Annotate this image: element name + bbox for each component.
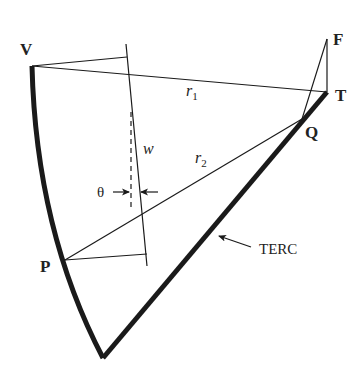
v-ray-line [32, 57, 127, 66]
p-ray-line [65, 254, 147, 260]
label-f: F [333, 30, 343, 49]
terc-arrow [219, 236, 251, 247]
label-v: V [20, 40, 33, 59]
r1-line [32, 66, 327, 92]
label-t: T [335, 86, 347, 105]
left-curved-edge [32, 66, 103, 358]
label-terc: TERC [259, 241, 297, 257]
label-w: w [143, 140, 154, 157]
label-theta: θ [97, 184, 104, 200]
terc-edge [103, 92, 327, 358]
label-p: P [40, 257, 50, 276]
label-q: Q [305, 123, 318, 142]
label-r2-sub: 2 [201, 157, 207, 169]
label-r2: r2 [195, 149, 207, 169]
label-r1: r1 [186, 82, 198, 102]
label-r1-sub: 1 [192, 90, 198, 102]
terc-geometry-diagram: V F T Q P r1 r2 w θ TERC [0, 0, 363, 385]
